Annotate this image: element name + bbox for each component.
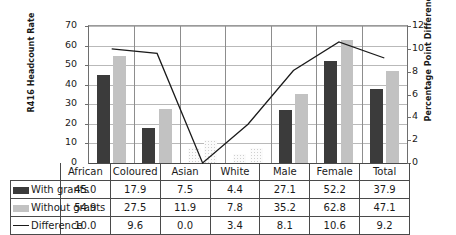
right-tick-10: 10 [412, 43, 434, 53]
chart-plot-region: R416 Headcount Rate Percentage Point Dif… [0, 0, 456, 172]
table-cell: 0.0 [160, 217, 210, 235]
table-corner-cell [11, 163, 61, 181]
right-tickmark [407, 95, 411, 96]
table-cell: 9.6 [110, 217, 160, 235]
chart-data-table: AfricanColouredAsianWhiteMaleFemaleTotal… [10, 163, 410, 235]
right-tick-6: 6 [412, 89, 434, 99]
table-cell: 9.2 [360, 217, 410, 235]
data-table-legend: AfricanColouredAsianWhiteMaleFemaleTotal… [10, 163, 410, 235]
difference-line-swatch [13, 225, 29, 226]
table-column-header-african: African [60, 163, 110, 181]
table-column-header-asian: Asian [160, 163, 210, 181]
left-tick-60: 60 [55, 40, 77, 50]
left-axis-tick-labels: 706050403020100 [55, 0, 77, 172]
table-cell: 62.8 [310, 199, 360, 217]
table-cell: 3.4 [210, 217, 260, 235]
right-tickmark [407, 49, 411, 50]
chart-figure: R416 Headcount Rate Percentage Point Dif… [0, 0, 456, 235]
table-cell: 8.1 [260, 217, 310, 235]
left-tick-10: 10 [55, 137, 77, 147]
table-cell: 47.1 [360, 199, 410, 217]
right-tickmark [407, 26, 411, 27]
table-cell: 4.4 [210, 181, 260, 199]
table-cell: 11.9 [160, 199, 210, 217]
table-cell: 27.1 [260, 181, 310, 199]
with-grants-swatch [13, 187, 29, 194]
left-tick-40: 40 [55, 79, 77, 89]
right-axis-tick-labels: 121086420 [412, 0, 434, 172]
table-column-header-male: Male [260, 163, 310, 181]
right-tick-8: 8 [412, 66, 434, 76]
without-grants-swatch [13, 205, 29, 212]
table-cell: 52.2 [310, 181, 360, 199]
right-tick-2: 2 [412, 134, 434, 144]
right-tick-4: 4 [412, 111, 434, 121]
table-cell: 7.8 [210, 199, 260, 217]
table-row-label: Difference [11, 217, 61, 235]
table-row-label: With grants [11, 181, 61, 199]
right-tick-0: 0 [412, 157, 434, 167]
table-column-header-female: Female [310, 163, 360, 181]
table-cell: 7.5 [160, 181, 210, 199]
left-tick-30: 30 [55, 98, 77, 108]
table-row: Difference10.09.60.03.48.110.69.2 [11, 217, 410, 235]
table-row: Without grants54.927.511.97.835.262.847.… [11, 199, 410, 217]
table-column-header-total: Total [360, 163, 410, 181]
left-axis-title: R416 Headcount Rate [27, 4, 36, 122]
table-row: With grants45.017.97.54.427.152.237.9 [11, 181, 410, 199]
table-column-header-white: White [210, 163, 260, 181]
left-tick-70: 70 [55, 20, 77, 30]
right-tickmark [407, 117, 411, 118]
table-cell: 10.6 [310, 217, 360, 235]
right-tickmark [407, 140, 411, 141]
left-tick-20: 20 [55, 118, 77, 128]
table-row-label: Without grants [11, 199, 61, 217]
left-tick-50: 50 [55, 59, 77, 69]
right-tick-12: 12 [412, 20, 434, 30]
table-column-header-coloured: Coloured [110, 163, 160, 181]
table-cell: 35.2 [260, 199, 310, 217]
plot-area [88, 25, 408, 164]
difference-line-series [89, 26, 407, 163]
right-tickmark [407, 72, 411, 73]
table-header-row: AfricanColouredAsianWhiteMaleFemaleTotal [11, 163, 410, 181]
table-cell: 17.9 [110, 181, 160, 199]
table-cell: 27.5 [110, 199, 160, 217]
table-cell: 37.9 [360, 181, 410, 199]
